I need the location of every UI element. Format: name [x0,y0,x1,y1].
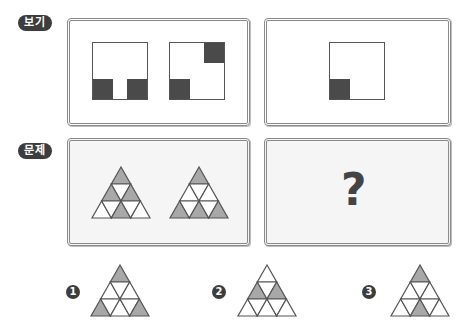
option-number-2[interactable]: 2 [212,285,226,299]
filled-cell [127,79,147,99]
example-badge: 보기 [18,15,52,31]
filled-cell [93,79,113,99]
problem-triangle-1 [90,165,152,221]
option-triangle-2[interactable] [236,263,298,319]
option-triangle-1[interactable] [89,263,151,319]
option-triangle-3[interactable] [389,263,451,319]
problem-triangle-2 [168,165,230,221]
option-number-3[interactable]: 3 [362,285,376,299]
example-square-3 [329,42,385,100]
example-square-2 [169,42,225,100]
filled-cell [170,79,190,99]
filled-cell [330,79,350,99]
option-number-1[interactable]: 1 [66,285,80,299]
question-mark: ? [341,164,367,215]
filled-cell [204,43,224,63]
problem-badge: 문제 [18,143,52,159]
example-square-1 [92,42,148,100]
